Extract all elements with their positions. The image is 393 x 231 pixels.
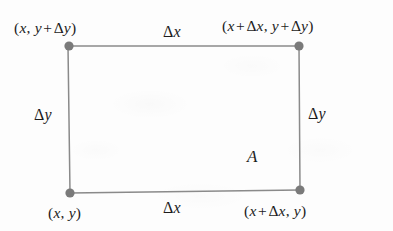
var-y: y <box>45 106 52 123</box>
plus-sign: + <box>42 19 54 36</box>
area-label: A <box>247 148 258 165</box>
var-delta-x: x <box>279 202 286 219</box>
delta-symbol: Δ <box>268 202 278 219</box>
delta-symbol: Δ <box>308 105 319 122</box>
delta-symbol: Δ <box>54 19 64 36</box>
vertex-dot-top-right <box>294 41 303 50</box>
comma: , <box>286 202 294 219</box>
vertex-label-bottom-right: (x+Δx, y) <box>244 203 306 219</box>
delta-symbol-2: Δ <box>291 17 301 34</box>
vertex-label-bottom-left: (x, y) <box>48 205 81 221</box>
plus-sign-2: + <box>279 17 291 34</box>
vertex-label-top-right: (x+Δx, y+Δy) <box>222 18 314 34</box>
plus-sign: + <box>256 202 268 219</box>
paren-close: ) <box>71 19 76 36</box>
vertex-label-top-left: (x, y+Δy) <box>14 20 76 36</box>
side-label-delta-x-bottom: Δx <box>163 200 181 216</box>
var-y: y <box>272 17 279 34</box>
paren-close: ) <box>308 17 313 34</box>
edge-left <box>68 46 70 193</box>
comma: , <box>60 204 68 221</box>
var-y: y <box>35 19 42 36</box>
delta-symbol: Δ <box>163 199 174 216</box>
vertex-dot-bottom-right <box>295 185 304 194</box>
side-label-delta-y-left: Δy <box>34 107 52 123</box>
vertex-dot-top-left <box>64 41 73 50</box>
var-y: y <box>69 204 76 221</box>
vertex-dot-bottom-left <box>65 188 74 197</box>
var-x: x <box>174 199 181 216</box>
edge-bottom <box>70 190 300 193</box>
comma: , <box>264 17 272 34</box>
var-delta-y: y <box>64 19 71 36</box>
comma: , <box>26 19 34 36</box>
paren-close: ) <box>301 202 306 219</box>
edge-right <box>299 46 300 190</box>
var-y: y <box>294 202 301 219</box>
var-x: x <box>174 23 181 40</box>
var-y: y <box>319 105 326 122</box>
delta-symbol: Δ <box>34 106 45 123</box>
delta-symbol-1: Δ <box>246 17 256 34</box>
plus-sign-1: + <box>234 17 246 34</box>
var-delta-x: x <box>257 17 264 34</box>
delta-symbol: Δ <box>163 23 174 40</box>
side-label-delta-x-top: Δx <box>163 24 181 40</box>
paren-close: ) <box>76 204 81 221</box>
side-label-delta-y-right: Δy <box>308 106 326 122</box>
geometry-figure: (x, y+Δy) (x+Δx, y+Δy) (x, y) (x+Δx, y) … <box>0 0 393 231</box>
